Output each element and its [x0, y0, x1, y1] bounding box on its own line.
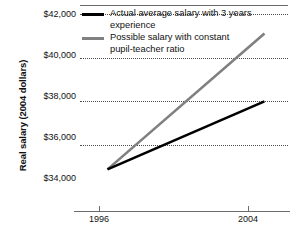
- y-tick-label-40000: $40,000: [20, 50, 76, 60]
- y-tick-label-34000: $34,000: [20, 173, 76, 183]
- legend-item-actual: Actual average salary with 3 years exper…: [82, 8, 294, 31]
- x-axis-line: [74, 211, 290, 212]
- chart-legend: Actual average salary with 3 years exper…: [82, 8, 294, 56]
- x-tick-mark-1996: [99, 206, 100, 211]
- y-axis-tick-labels: $42,000 $40,000 $38,000 $36,000 $34,000: [20, 0, 76, 237]
- legend-item-possible: Possible salary with constant pupil-teac…: [82, 32, 294, 55]
- x-tick-label-1996: 1996: [89, 214, 109, 224]
- legend-label-actual: Actual average salary with 3 years exper…: [110, 8, 294, 31]
- y-tick-label-38000: $38,000: [20, 91, 76, 101]
- y-tick-label-42000: $42,000: [20, 9, 76, 19]
- legend-swatch-icon-possible: [82, 37, 104, 40]
- series-line-actual: [107, 101, 264, 169]
- y-tick-label-36000: $36,000: [20, 132, 76, 142]
- x-tick-label-2004: 2004: [238, 214, 258, 224]
- x-tick-mark-2004: [248, 206, 249, 211]
- chart-figure: Real salary (2004 dollars) $42,000 $40,0…: [0, 0, 296, 237]
- legend-label-possible: Possible salary with constant pupil-teac…: [110, 32, 229, 55]
- legend-swatch-icon-actual: [82, 13, 104, 16]
